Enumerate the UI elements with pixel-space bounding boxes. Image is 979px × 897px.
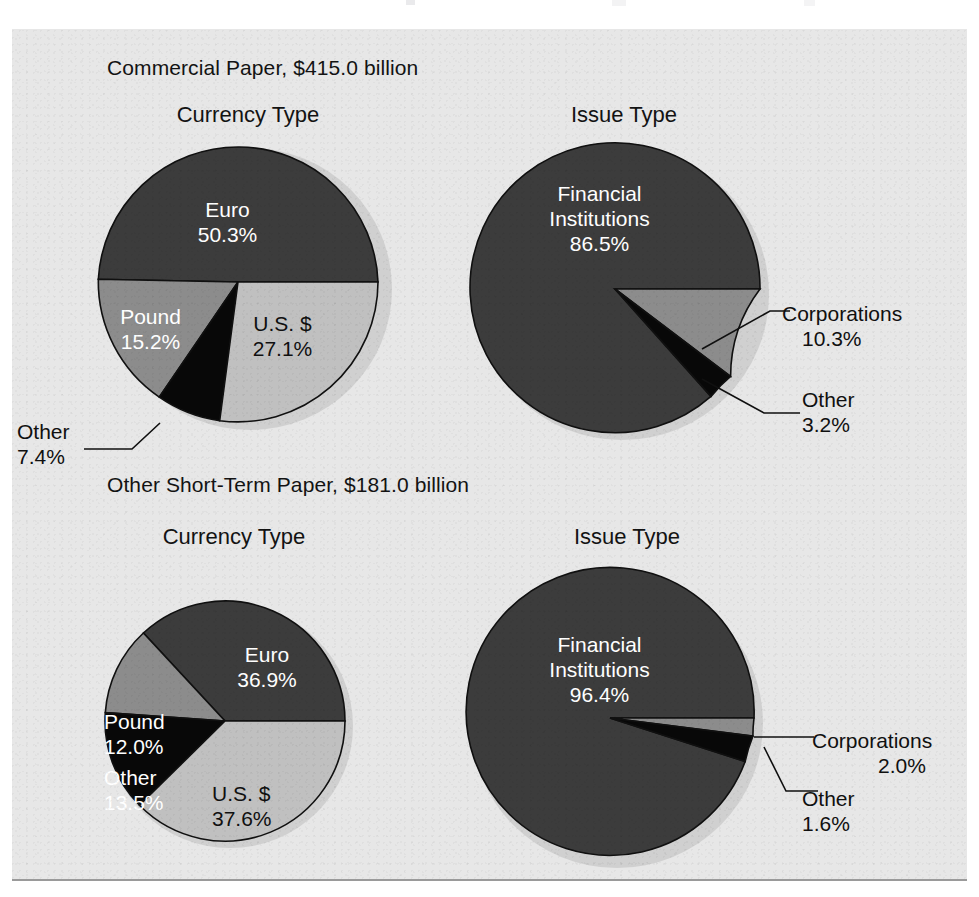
pie-label-corporations-name: Corporations <box>812 728 972 753</box>
pie-label-corporations-name: Corporations <box>782 301 967 326</box>
pie-label-other-issue: Other 1.6% <box>802 786 952 836</box>
pie-label-corporations-value: 2.0% <box>812 753 972 778</box>
pie-label-other-value: 3.2% <box>802 412 952 437</box>
chart-title-other-currency-type: Currency Type <box>124 524 344 550</box>
section-heading-other-short-term-paper: Other Short-Term Paper, $181.0 billion <box>107 473 469 497</box>
crop-artifact <box>406 0 415 5</box>
pie-label-other-issue: Other 3.2% <box>802 387 952 437</box>
pie-label-other-name: Other <box>802 387 952 412</box>
pie-chart-commercial-issue-type[interactable] <box>460 137 800 447</box>
crop-artifact <box>804 0 815 6</box>
chart-title-commercial-currency-type: Currency Type <box>138 102 358 128</box>
chart-title-commercial-issue-type: Issue Type <box>524 102 724 128</box>
pie-chart-other-issue-type[interactable] <box>462 571 782 881</box>
pie-label-corporations: Corporations 2.0% <box>812 728 972 778</box>
pie-slice-usd[interactable] <box>220 282 378 422</box>
pie-slice-euro[interactable] <box>98 147 378 282</box>
scan-crop-artifacts <box>0 0 979 8</box>
pie-label-other-value: 1.6% <box>802 811 952 836</box>
pie-chart-commercial-currency-type[interactable] <box>98 137 418 437</box>
pie-label-other-name: Other <box>802 786 952 811</box>
pie-label-other: Other 7.4% <box>17 419 102 469</box>
pie-label-corporations-value: 10.3% <box>782 326 967 351</box>
pie-slice-financial-institutions[interactable] <box>466 567 754 855</box>
pie-label-corporations: Corporations 10.3% <box>782 301 967 351</box>
pie-label-other-name: Other <box>17 419 102 444</box>
pie-label-other-value: 7.4% <box>17 444 102 469</box>
figure-panel: Commercial Paper, $415.0 billion Currenc… <box>12 29 967 881</box>
pie-chart-other-currency-type[interactable] <box>100 595 380 865</box>
figure-page: Commercial Paper, $415.0 billion Currenc… <box>0 0 979 897</box>
crop-artifact <box>612 0 626 6</box>
chart-title-other-issue-type: Issue Type <box>527 524 727 550</box>
section-heading-commercial-paper: Commercial Paper, $415.0 billion <box>107 56 418 80</box>
